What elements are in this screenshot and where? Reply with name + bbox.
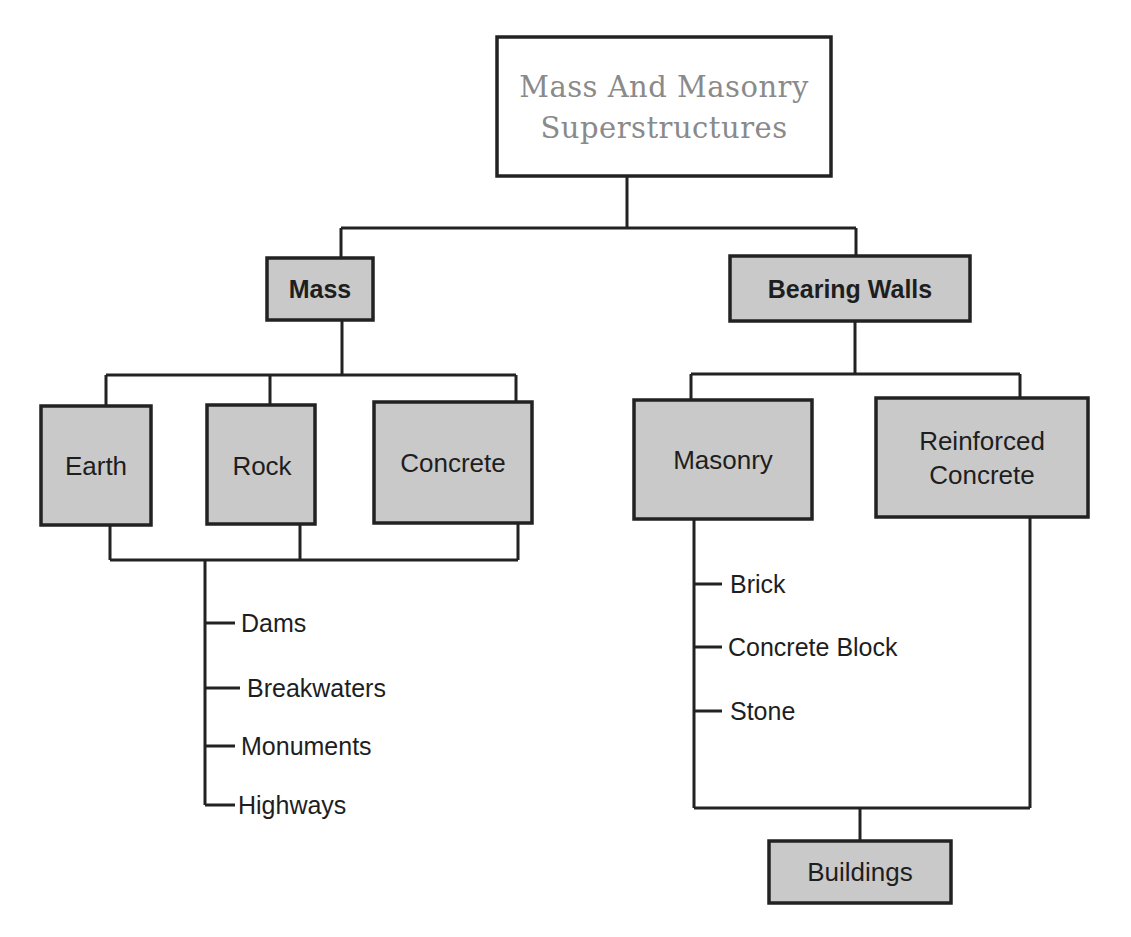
masonry-types-list: Brick Concrete Block Stone <box>728 570 898 725</box>
earth-label: Earth <box>65 451 127 481</box>
title-box <box>497 37 831 176</box>
node-rock: Rock <box>207 405 315 524</box>
reinforced-concrete-line-2: Concrete <box>929 460 1035 490</box>
masonry-label: Masonry <box>673 445 773 475</box>
rock-label: Rock <box>232 451 292 481</box>
buildings-label: Buildings <box>807 857 913 887</box>
mass-uses-list: Dams Breakwaters Monuments Highways <box>238 609 386 819</box>
mass-label: Mass <box>289 275 352 303</box>
type-brick: Brick <box>730 570 786 598</box>
node-earth: Earth <box>41 406 151 525</box>
diagram-canvas: Mass And Masonry Superstructures Mass Be… <box>0 0 1131 937</box>
bearing-walls-label: Bearing Walls <box>768 275 932 303</box>
type-concrete-block: Concrete Block <box>728 633 898 661</box>
title-node: Mass And Masonry Superstructures <box>497 37 831 176</box>
title-line-1: Mass And Masonry <box>519 70 809 104</box>
type-stone: Stone <box>730 697 795 725</box>
concrete-label: Concrete <box>400 448 506 478</box>
use-dams: Dams <box>241 609 306 637</box>
reinforced-concrete-line-1: Reinforced <box>919 426 1045 456</box>
reinforced-concrete-box <box>876 398 1088 517</box>
node-bearing-walls: Bearing Walls <box>730 256 970 321</box>
node-buildings: Buildings <box>769 841 951 903</box>
node-mass: Mass <box>267 258 373 320</box>
use-monuments: Monuments <box>241 732 372 760</box>
title-line-2: Superstructures <box>540 111 787 145</box>
use-breakwaters: Breakwaters <box>247 674 386 702</box>
node-masonry: Masonry <box>634 400 812 519</box>
use-highways: Highways <box>238 791 346 819</box>
node-concrete: Concrete <box>374 402 532 523</box>
node-reinforced-concrete: Reinforced Concrete <box>876 398 1088 517</box>
